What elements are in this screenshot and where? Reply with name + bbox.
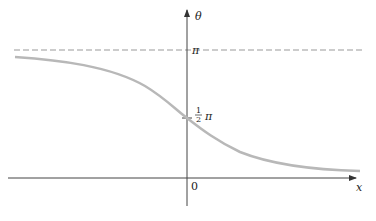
half-pi-denominator: 2: [196, 115, 201, 124]
half-pi-numerator: 1: [196, 106, 201, 115]
y-axis-label: θ: [195, 10, 202, 23]
x-axis-label: x: [356, 181, 363, 194]
pi-label: π: [191, 44, 200, 57]
theta-graph: θ π 1 2 π 0 x: [0, 0, 376, 221]
half-pi-symbol: π: [204, 110, 213, 123]
origin-label: 0: [191, 180, 198, 193]
